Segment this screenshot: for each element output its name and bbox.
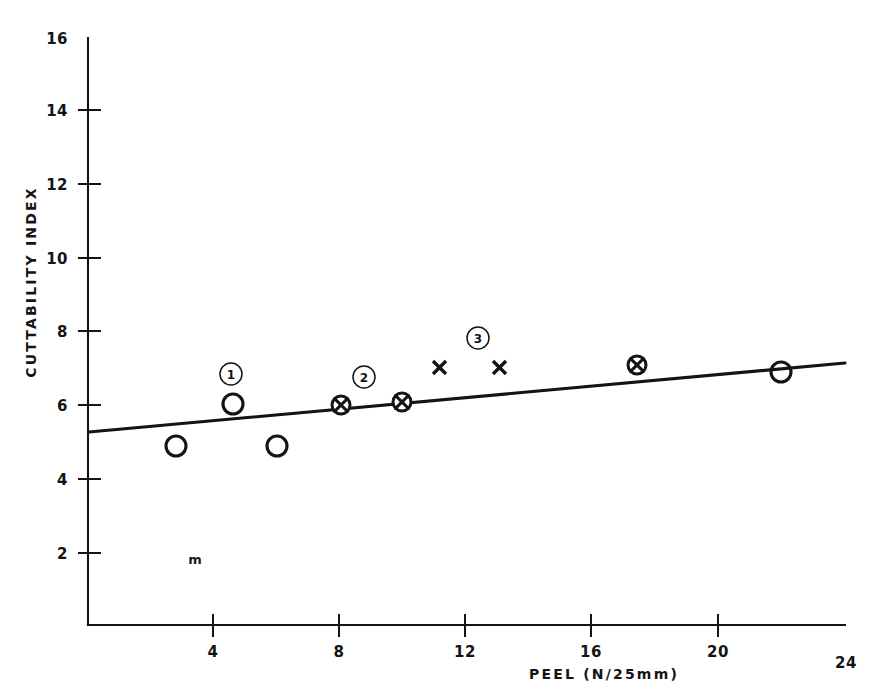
regression-line	[89, 363, 845, 432]
y-tick-labels: 16 14 12 10 8 6 4 2	[46, 30, 68, 563]
y-tick-label-16: 16	[46, 30, 68, 48]
data-point-open-circle	[166, 436, 186, 456]
data-point-crossed-circle	[393, 393, 411, 411]
annotation-label: 2	[360, 371, 368, 385]
annotation-circled-three: 3	[467, 327, 489, 349]
scatter-chart: 16 14 12 10 8 6 4 2 4 8 12 16 20 24 CUTT…	[0, 0, 871, 686]
y-tick-label-10: 10	[46, 250, 68, 268]
annotation-circled-two: 2	[353, 366, 375, 388]
x-tick-label-24: 24	[835, 654, 857, 672]
y-tick-marks	[78, 110, 101, 553]
y-tick-label-8: 8	[57, 323, 68, 341]
series-x-mark	[433, 361, 506, 374]
chart-canvas: 16 14 12 10 8 6 4 2 4 8 12 16 20 24 CUTT…	[0, 0, 871, 686]
data-point-crossed-circle	[628, 356, 646, 374]
stray-glyph-m: m	[188, 552, 202, 567]
y-tick-label-14: 14	[46, 102, 68, 120]
data-point-open-circle	[223, 394, 243, 414]
annotation-label: 3	[474, 332, 482, 346]
x-tick-label-8: 8	[334, 643, 345, 661]
y-tick-label-2: 2	[57, 545, 68, 563]
data-point-x-mark	[493, 361, 506, 374]
y-tick-label-4: 4	[57, 471, 68, 489]
annotation-circled-one: 1	[220, 363, 242, 385]
axis-group	[88, 38, 845, 625]
annotation-label: 1	[227, 368, 235, 382]
y-tick-label-12: 12	[46, 176, 68, 194]
x-tick-label-16: 16	[580, 643, 602, 661]
x-tick-label-20: 20	[707, 643, 729, 661]
data-point-open-circle	[771, 362, 791, 382]
x-tick-label-4: 4	[208, 643, 219, 661]
data-point-x-mark	[433, 361, 446, 374]
x-tick-label-12: 12	[454, 643, 476, 661]
data-point-crossed-circle	[332, 396, 350, 414]
data-point-open-circle	[267, 436, 287, 456]
x-axis-title: PEEL (N/25mm)	[529, 666, 679, 682]
y-axis-title: CUTTABILITY INDEX	[23, 186, 39, 378]
y-tick-label-6: 6	[57, 397, 68, 415]
